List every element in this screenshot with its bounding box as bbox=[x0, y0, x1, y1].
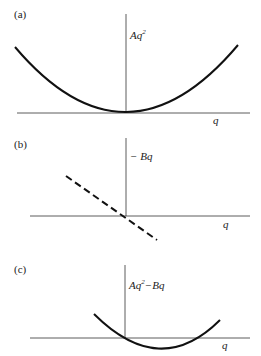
diagram-canvas bbox=[0, 0, 261, 356]
panel-c-axes bbox=[30, 265, 250, 338]
panel-b-label: (b) bbox=[14, 138, 27, 150]
panel-b-dashed-line bbox=[66, 176, 157, 240]
panel-c-y-label: Aq2−Bq bbox=[129, 278, 164, 291]
panel-a-x-label: q bbox=[213, 114, 219, 126]
panel-a-y-label: Aq2 bbox=[130, 28, 146, 41]
panel-c-curve bbox=[94, 314, 220, 349]
panel-b-x-label: q bbox=[223, 218, 229, 230]
panel-a-curve bbox=[15, 45, 238, 112]
panel-b-y-label: − Bq bbox=[130, 150, 152, 162]
panel-c-x-label: q bbox=[222, 339, 228, 351]
panel-c-label: (c) bbox=[14, 263, 26, 275]
panel-a-label: (a) bbox=[14, 8, 26, 20]
